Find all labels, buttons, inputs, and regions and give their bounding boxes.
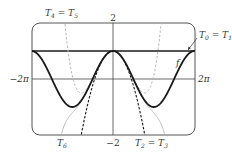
y-top-label: 2 [110,13,116,23]
x-left-label: −2π [10,74,30,84]
y-bottom-label: −2 [106,138,119,148]
t2-t3-label: T2 = T3 [135,138,168,149]
x-right-label: 2π [197,74,211,84]
taylor-polynomial-chart: 2 −2 −2π 2π T4 = T5 T0 = T1 f T6 T2 = T3 [0,0,232,152]
t4-t5-label: T4 = T5 [45,8,78,19]
t0-t1-label: T0 = T1 [199,30,232,41]
t6-label: T6 [57,138,67,149]
